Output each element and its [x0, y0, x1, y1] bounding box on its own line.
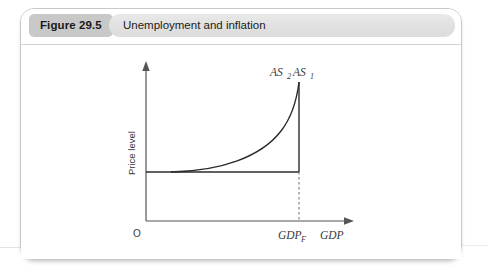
- figure-header: Figure 29.5 Unemployment and inflation: [21, 9, 461, 43]
- origin-label: O: [133, 228, 141, 239]
- gdp-f-label: GDP F: [278, 229, 306, 244]
- as1-label: AS 1: [292, 66, 314, 81]
- figure-number-badge: Figure 29.5: [29, 14, 113, 37]
- x-axis: [146, 217, 354, 224]
- gdp-axis-label: GDP: [320, 229, 344, 241]
- as2-label-text: AS: [269, 66, 283, 78]
- gdp-f-label-text: GDP: [278, 229, 302, 241]
- as1-label-subscript: 1: [310, 72, 314, 81]
- y-axis-arrow-icon: [142, 61, 149, 71]
- as1-curve: [146, 82, 299, 172]
- figure-title-badge: Unemployment and inflation: [109, 14, 455, 37]
- chart-plot-area: AS 2 AS 1 GDP F GDP Price level O: [21, 45, 461, 259]
- as2-label: AS 2: [269, 66, 291, 81]
- as1-label-text: AS: [292, 66, 306, 78]
- y-axis: [142, 61, 149, 221]
- as2-curve: [171, 82, 299, 172]
- aggregate-supply-chart: AS 2 AS 1 GDP F GDP Price level O: [21, 45, 461, 259]
- as2-label-subscript: 2: [287, 72, 291, 81]
- gdp-f-label-subscript: F: [300, 235, 306, 244]
- x-axis-arrow-icon: [344, 217, 354, 224]
- page-rule-right: [460, 245, 488, 246]
- price-level-label: Price level: [126, 131, 137, 175]
